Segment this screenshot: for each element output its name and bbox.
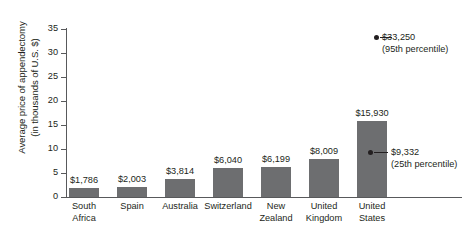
bar-australia <box>165 179 195 197</box>
y-tick-label-20: 20 <box>36 96 58 105</box>
bar-spain <box>117 187 147 197</box>
y-tick-label-wrap: 30 <box>36 48 58 58</box>
cropped-caption-strip <box>0 240 471 246</box>
y-tick-30 <box>61 53 66 54</box>
bar-new-zealand <box>261 167 291 197</box>
leader-line-25th <box>374 152 388 153</box>
y-tick-label-wrap: 10 <box>36 144 58 154</box>
y-tick-label-wrap: 15 <box>36 120 58 130</box>
x-axis-label-line: States <box>340 213 404 225</box>
y-tick-label-0: 0 <box>36 192 58 201</box>
chart-container: Average price of appendectomy (in thousa… <box>0 0 471 246</box>
annotation-25th-value: $9,332 <box>391 147 457 159</box>
bar-south-africa <box>69 188 99 197</box>
x-axis-label-united-states: UnitedStates <box>340 201 404 224</box>
y-tick-15 <box>61 125 66 126</box>
bar-value-label-new-zealand: $6,199 <box>246 155 306 164</box>
annotation-95th-text: $33,250 (95th percentile) <box>382 32 448 55</box>
y-tick-0 <box>61 197 66 198</box>
bar-united-kingdom <box>309 159 339 197</box>
y-tick-label-wrap: 25 <box>36 72 58 82</box>
y-tick-label-25: 25 <box>36 72 58 81</box>
x-axis-label-line: Africa <box>52 213 116 225</box>
y-tick-label-35: 35 <box>36 24 58 33</box>
y-tick-label-30: 30 <box>36 48 58 57</box>
y-tick-20 <box>61 101 66 102</box>
bar-united-states <box>357 121 387 197</box>
annotation-25th-text: $9,332 (25th percentile) <box>391 147 457 170</box>
bar-value-label-united-kingdom: $8,009 <box>294 147 354 156</box>
annotation-95th-value: $33,250 <box>382 32 448 44</box>
x-axis-label-line: United <box>340 201 404 213</box>
bar-value-label-spain: $2,003 <box>102 175 162 184</box>
y-axis-line <box>66 28 67 198</box>
bar-switzerland <box>213 168 243 197</box>
marker-dot-95th-icon <box>374 35 379 40</box>
marker-dot-25th-icon <box>368 150 373 155</box>
annotation-25th-sublabel: (25th percentile) <box>391 159 457 171</box>
y-tick-25 <box>61 77 66 78</box>
y-tick-label-15: 15 <box>36 120 58 129</box>
y-tick-label-wrap: 20 <box>36 96 58 106</box>
bar-value-label-united-states: $15,930 <box>342 109 402 118</box>
cropped-caption-text <box>95 240 98 245</box>
y-tick-label-10: 10 <box>36 144 58 153</box>
bar-value-label-australia: $3,814 <box>150 167 210 176</box>
y-tick-label-wrap: 35 <box>36 24 58 34</box>
y-tick-10 <box>61 149 66 150</box>
y-axis-title-line1: Average price of appendectomy <box>16 3 29 173</box>
y-tick-35 <box>61 29 66 30</box>
x-axis-line <box>66 197 462 198</box>
annotation-95th-sublabel: (95th percentile) <box>382 44 448 56</box>
y-tick-5 <box>61 173 66 174</box>
